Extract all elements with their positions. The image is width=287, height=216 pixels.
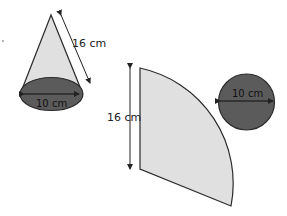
cone-slant-label: 16 cm [72,37,106,50]
net-radius-label: 16 cm [107,111,141,124]
net-circle-label: 10 cm [232,88,263,99]
net-sector [140,68,233,206]
stray-dot [2,40,4,42]
cone-net: 16 cm 10 cm [107,68,275,206]
cone: 10 cm 16 cm [20,15,106,111]
cone-net-diagram: 10 cm 16 cm 16 cm 10 cm [0,0,287,216]
net-base-circle [219,74,275,130]
cone-base-label: 10 cm [36,98,67,109]
